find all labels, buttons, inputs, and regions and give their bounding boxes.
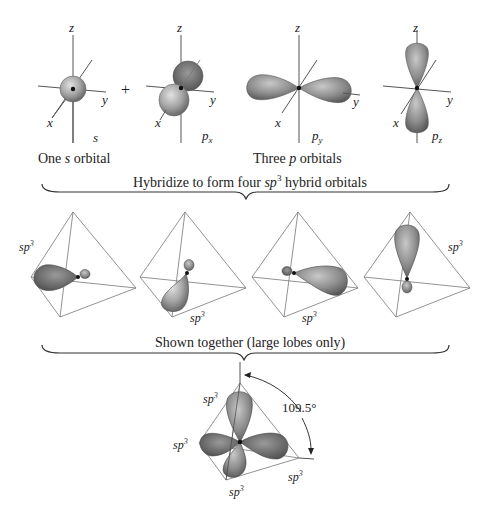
sp3-hybrid-3: sp3 bbox=[252, 212, 358, 325]
sp3-label: sp3 bbox=[288, 469, 303, 484]
sp3-hybrid-1: sp3 bbox=[19, 212, 136, 317]
small-lobe bbox=[282, 267, 292, 276]
upper-lobe bbox=[226, 392, 252, 442]
large-lobe bbox=[294, 266, 347, 295]
caption-three-p-orbitals: Three p orbitals bbox=[253, 151, 342, 167]
small-lobe bbox=[80, 270, 90, 279]
caption-hybridize: Hybridize to form four sp3 hybrid orbita… bbox=[133, 173, 367, 191]
axis-x-label: x bbox=[274, 115, 281, 130]
sp3-label: sp3 bbox=[229, 484, 244, 499]
small-lobe bbox=[184, 260, 194, 271]
large-lobe bbox=[395, 225, 420, 278]
axis-z-label: z bbox=[176, 20, 182, 35]
sp3-label: sp3 bbox=[190, 310, 205, 325]
large-lobe bbox=[34, 265, 78, 291]
axis-z-label: z bbox=[294, 20, 300, 35]
sp3-combined-figure: 109.5° sp3 sp3 sp3 sp3 bbox=[173, 362, 316, 499]
arrowhead-icon bbox=[308, 448, 314, 455]
sp3-label: sp3 bbox=[173, 437, 188, 452]
pz-orbital-figure: z y x pz bbox=[383, 20, 453, 145]
px-label: px bbox=[201, 128, 213, 145]
bond-angle-label: 109.5° bbox=[282, 400, 316, 415]
axis-y-label: y bbox=[351, 94, 359, 109]
s-orbital-figure: z y x s bbox=[38, 20, 108, 145]
s-label: s bbox=[93, 130, 98, 145]
axis-y-label: y bbox=[100, 92, 108, 107]
sp3-label: sp3 bbox=[448, 239, 463, 254]
axis-z-label: z bbox=[68, 20, 74, 35]
py-orbital-figure: z y x py bbox=[247, 20, 360, 145]
sp3-label: sp3 bbox=[203, 391, 218, 406]
axis-y-label: y bbox=[445, 92, 453, 107]
sp3-label: sp3 bbox=[302, 310, 317, 325]
axis-x-label: x bbox=[46, 115, 53, 130]
plus-sign: + bbox=[121, 81, 130, 98]
axis-z-label: z bbox=[412, 20, 418, 35]
sp3-hybridization-diagram: z y x s + z y x px z y x py bbox=[0, 0, 498, 505]
pz-lower-lobe bbox=[406, 88, 429, 133]
px-orbital-figure: z y x px bbox=[146, 20, 216, 145]
py-right-lobe bbox=[299, 78, 351, 103]
caption-shown-together: Shown together (large lobes only) bbox=[155, 335, 345, 351]
px-front-lobe bbox=[159, 84, 189, 116]
py-left-lobe bbox=[247, 75, 299, 100]
small-lobe bbox=[402, 281, 412, 293]
py-label: py bbox=[311, 128, 323, 145]
sp3-label: sp3 bbox=[19, 239, 34, 254]
pz-label: pz bbox=[431, 128, 443, 145]
right-lobe bbox=[240, 433, 288, 459]
pz-upper-lobe bbox=[406, 43, 429, 88]
nucleus-dot bbox=[71, 87, 75, 91]
angle-arc-lower bbox=[302, 418, 311, 450]
axis-y-label: y bbox=[208, 92, 216, 107]
sp3-hybrid-2: sp3 bbox=[140, 212, 246, 325]
axis-x-label: x bbox=[154, 115, 161, 130]
arrowhead-icon bbox=[244, 372, 251, 378]
sp3-hybrid-4: sp3 bbox=[364, 212, 470, 317]
caption-one-s-orbital: One s orbital bbox=[38, 151, 110, 167]
axis-x-label: x bbox=[392, 115, 399, 130]
